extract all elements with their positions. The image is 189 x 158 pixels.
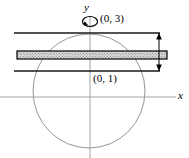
arrow-up-icon [156,33,162,40]
x-axis-label: x [178,90,183,101]
figure-container: y x (0, 3) (0, 1) [0,0,189,158]
inner-point-label: (0, 1) [93,73,117,84]
y-axis-label: y [84,2,89,13]
top-point-label: (0, 3) [100,13,124,24]
washer-slab [17,51,167,59]
arrow-down-icon [156,65,162,72]
